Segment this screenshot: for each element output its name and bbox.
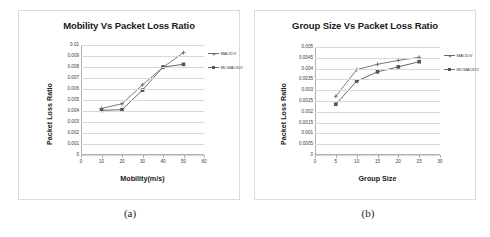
y-tick-label: 0.0015 — [287, 120, 313, 125]
x-tick — [143, 155, 144, 158]
x-tick — [440, 155, 441, 158]
legend-label-maodv-a: MAODV — [221, 51, 237, 56]
legend-marker-square-icon — [444, 67, 455, 72]
gridline-y — [315, 133, 440, 134]
x-tick — [163, 155, 164, 158]
x-tick-label: 60 — [194, 159, 214, 164]
gridline-y — [81, 133, 204, 134]
gridline-y — [315, 112, 440, 113]
gridline-y — [315, 58, 440, 59]
legend-b: + MAODV MCMAODV — [444, 53, 479, 81]
chart-title-a: Mobility Vs Packet Loss Ratio — [19, 20, 239, 31]
y-tick-label: 0.01 — [53, 42, 79, 47]
y-tick-label: 0.0045 — [287, 55, 313, 60]
y-tick-label: 0 — [53, 152, 79, 157]
figure-caption-b: (b) — [348, 207, 388, 219]
plot-area-b — [315, 47, 440, 155]
legend-item-mcmaodv: MCMAODV — [208, 65, 243, 70]
x-tick-label: 20 — [388, 159, 408, 164]
gridline-y — [81, 144, 204, 145]
y-tick-label: 0 — [287, 152, 313, 157]
x-tick — [315, 155, 316, 158]
x-tick — [398, 155, 399, 158]
y-tick-label: 0.002 — [53, 130, 79, 135]
x-tick — [419, 155, 420, 158]
x-tick-label: 10 — [347, 159, 367, 164]
y-tick-label: 0.0035 — [287, 76, 313, 81]
x-tick-label: 5 — [326, 159, 346, 164]
x-tick-label: 50 — [174, 159, 194, 164]
data-point-marker — [376, 70, 380, 74]
x-tick — [204, 155, 205, 158]
y-tick-label: 0.003 — [287, 87, 313, 92]
y-tick-label: 0.005 — [53, 97, 79, 102]
figure-caption-a: (a) — [110, 207, 150, 219]
gridline-y — [315, 90, 440, 91]
x-tick — [378, 155, 379, 158]
x-tick — [336, 155, 337, 158]
gridline-y — [81, 56, 204, 57]
chart-panel-b: Group Size Vs Packet Loss Ratio Packet L… — [254, 10, 476, 200]
x-tick — [122, 155, 123, 158]
x-tick-label: 0 — [305, 159, 325, 164]
legend-marker-square-icon — [208, 65, 219, 70]
legend-item-maodv: + MAODV — [444, 53, 479, 58]
y-tick-label: 0.0025 — [287, 98, 313, 103]
y-tick-label: 0.006 — [53, 86, 79, 91]
gridline-y — [81, 45, 204, 46]
data-point-marker — [182, 63, 186, 67]
gridline-y — [315, 47, 440, 48]
gridline-y — [315, 144, 440, 145]
plot-area-a — [81, 45, 204, 155]
x-tick — [357, 155, 358, 158]
x-tick-label: 15 — [368, 159, 388, 164]
x-tick-label: 30 — [133, 159, 153, 164]
y-tick-label: 0.007 — [53, 75, 79, 80]
legend-marker-cross-icon: + — [208, 51, 219, 56]
y-tick-label: 0.004 — [287, 66, 313, 71]
legend-label-mcmaodv-b: MCMAODV — [457, 67, 479, 72]
chart-title-b: Group Size Vs Packet Loss Ratio — [255, 20, 475, 31]
gridline-y — [81, 78, 204, 79]
x-tick — [81, 155, 82, 158]
figure-root: Mobility Vs Packet Loss Ratio Packet Los… — [0, 0, 490, 237]
data-point-marker — [417, 60, 421, 64]
y-tick-label: 0.003 — [53, 119, 79, 124]
y-axis-title-a: Packet Loss Ratio — [45, 83, 54, 145]
y-tick-label: 0.0005 — [287, 141, 313, 146]
legend-label-maodv-b: MAODV — [457, 53, 473, 58]
x-tick-label: 40 — [153, 159, 173, 164]
chart-panel-a: Mobility Vs Packet Loss Ratio Packet Los… — [18, 10, 240, 200]
x-axis-title-a: Mobility(m/s) — [81, 174, 204, 183]
data-point-marker — [376, 62, 380, 66]
y-tick-label: 0.004 — [53, 108, 79, 113]
legend-item-maodv: + MAODV — [208, 51, 243, 56]
gridline-y — [81, 67, 204, 68]
x-axis-title-b: Group Size — [315, 174, 440, 183]
x-tick-label: 30 — [430, 159, 450, 164]
gridline-y — [81, 89, 204, 90]
gridline-y — [315, 123, 440, 124]
gridline-y — [315, 101, 440, 102]
gridline-y — [81, 100, 204, 101]
data-point-marker — [396, 58, 400, 62]
y-axis-title-b: Packet Loss Ratio — [279, 83, 288, 145]
x-tick-label: 0 — [71, 159, 91, 164]
y-tick-label: 0.008 — [53, 64, 79, 69]
legend-item-mcmaodv: MCMAODV — [444, 67, 479, 72]
legend-a: + MAODV MCMAODV — [208, 51, 243, 79]
gridline-y — [81, 122, 204, 123]
x-tick-label: 10 — [92, 159, 112, 164]
x-tick — [102, 155, 103, 158]
x-tick — [184, 155, 185, 158]
y-tick-label: 0.001 — [53, 141, 79, 146]
gridline-y — [315, 79, 440, 80]
legend-marker-cross-icon: + — [444, 53, 455, 58]
gridline-y — [81, 111, 204, 112]
y-tick-label: 0.009 — [53, 53, 79, 58]
x-tick-label: 25 — [409, 159, 429, 164]
y-tick-label: 0.005 — [287, 44, 313, 49]
series-line — [102, 64, 184, 110]
legend-label-mcmaodv-a: MCMAODV — [221, 65, 243, 70]
x-tick-label: 20 — [112, 159, 132, 164]
